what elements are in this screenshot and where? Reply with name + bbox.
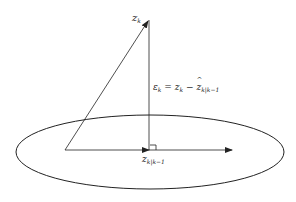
zk-vector (65, 21, 148, 150)
zk-label: zk (132, 13, 141, 24)
estimate-main: z (142, 155, 147, 164)
zk-label-sub: k (137, 17, 141, 24)
zhat-main: z (196, 83, 201, 92)
subspace-ellipse (16, 115, 284, 189)
diagram-canvas (0, 0, 296, 202)
error-equation: εk = zk − zk|k−1 (153, 83, 219, 93)
equals-sign: = (161, 82, 174, 92)
zhat-sub: k|k−1 (201, 86, 219, 93)
estimate-label: zk|k−1 (142, 155, 165, 165)
estimate-sub: k|k−1 (147, 158, 165, 165)
right-angle-marker (150, 145, 156, 150)
minus-sign: − (183, 82, 196, 92)
